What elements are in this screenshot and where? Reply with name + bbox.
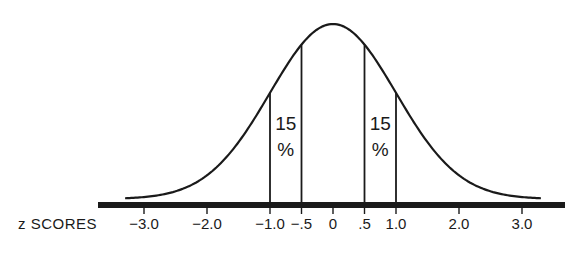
tick-label: 0 xyxy=(329,215,337,232)
tick-label: 3.0 xyxy=(512,215,533,232)
x-axis-title: z SCORES xyxy=(18,215,97,232)
tick-label: −3.0 xyxy=(129,215,159,232)
tick-label: −1.0 xyxy=(255,215,285,232)
percent-sign: % xyxy=(277,139,294,160)
tick-label: 2.0 xyxy=(449,215,470,232)
percent-sign: % xyxy=(372,139,389,160)
x-axis-ticks: −3.0−2.0−1.0−.50.51.02.03.0 xyxy=(129,207,532,232)
bell-curve xyxy=(125,24,541,198)
percent-annotations: 15%15% xyxy=(275,113,391,160)
normal-curve-chart: −3.0−2.0−1.0−.50.51.02.03.0 z SCORES 15%… xyxy=(0,0,579,256)
bell-curve-path xyxy=(125,24,541,198)
x-axis-baseline xyxy=(98,202,565,208)
percent-value: 15 xyxy=(370,113,391,134)
percent-value: 15 xyxy=(275,113,296,134)
tick-label: −2.0 xyxy=(192,215,222,232)
normal-distribution-diagram: −3.0−2.0−1.0−.50.51.02.03.0 z SCORES 15%… xyxy=(0,0,579,256)
tick-label: −.5 xyxy=(291,215,312,232)
tick-label: 1.0 xyxy=(386,215,407,232)
tick-label: .5 xyxy=(358,215,371,232)
